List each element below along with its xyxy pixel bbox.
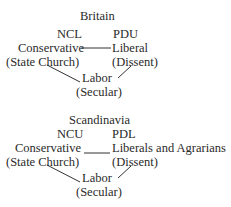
connector-lines xyxy=(0,0,231,207)
britain-conservative-labor-line xyxy=(47,65,80,82)
scandinavia-liberal-labor-line xyxy=(118,166,131,178)
britain-liberal-labor-line xyxy=(118,66,131,78)
scandinavia-conservative-labor-line xyxy=(47,165,80,182)
